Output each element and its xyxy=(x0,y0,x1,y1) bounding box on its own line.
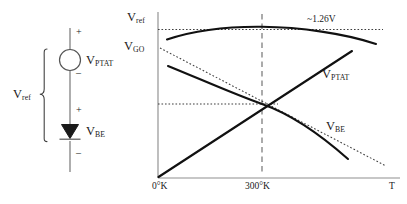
polarity-plus-diode: + xyxy=(76,105,82,115)
diode-icon xyxy=(62,125,79,139)
y-tick-vref-sub: ref xyxy=(136,16,145,25)
y-tick-vgo-base: V xyxy=(124,39,133,53)
polarity-minus-bottom: – xyxy=(76,148,81,158)
curly-brace-icon xyxy=(40,49,47,142)
vbe-curve-label-base: V xyxy=(326,119,335,133)
vptat-source-label-sub: PTAT xyxy=(95,59,113,68)
circuit-diagram xyxy=(40,28,81,172)
vbe-curve-label: VBE xyxy=(326,120,345,133)
x-tick-0k: 0°K xyxy=(152,182,167,192)
vptat-curve-label: VPTAT xyxy=(322,68,349,81)
vref-brace-label-sub: ref xyxy=(22,93,31,102)
polarity-minus-source: – xyxy=(76,68,81,78)
vbe-diode-label-base: V xyxy=(86,124,95,138)
x-axis-label-T: T xyxy=(389,182,395,192)
y-tick-vgo-sub: GO xyxy=(133,45,144,54)
vptat-curve-label-sub: PTAT xyxy=(331,73,349,82)
figure-canvas xyxy=(0,0,407,204)
vbe-curve-label-sub: BE xyxy=(335,125,345,134)
figure-root: VPTAT VBE Vref + – + – Vref VGO 0°K 300°… xyxy=(0,0,407,204)
vref-brace-label-base: V xyxy=(13,87,22,101)
vptat-source-label-base: V xyxy=(86,53,95,67)
vbe-diode-label: VBE xyxy=(86,125,105,138)
y-tick-vgo: VGO xyxy=(124,40,144,53)
vgo-extrapolation-dotted xyxy=(160,48,386,166)
y-tick-vref: Vref xyxy=(127,11,145,24)
vptat-curve-label-base: V xyxy=(322,67,331,81)
x-tick-300k: 300°K xyxy=(245,182,270,192)
chart-plot xyxy=(158,12,400,178)
vref-brace-label: Vref xyxy=(13,88,31,101)
polarity-plus-top: + xyxy=(76,27,82,37)
vptat-source-label: VPTAT xyxy=(86,54,113,67)
vbe-diode-label-sub: BE xyxy=(95,130,105,139)
y-tick-vref-base: V xyxy=(127,10,136,24)
bandgap-value-annotation: ~1.26V xyxy=(307,15,336,25)
